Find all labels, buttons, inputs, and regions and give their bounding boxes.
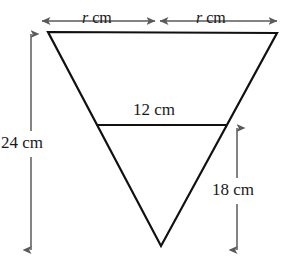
geometry-diagram	[0, 0, 286, 259]
label-radius-right-symbol: r	[196, 9, 202, 26]
label-lower-height: 18 cm	[212, 181, 254, 198]
diagram-background	[0, 0, 286, 259]
label-chord-width: 12 cm	[133, 101, 175, 118]
label-radius-left-unit: cm	[92, 9, 112, 26]
label-radius-left-symbol: r	[82, 9, 88, 26]
label-radius-right-unit: cm	[206, 9, 226, 26]
label-radius-left: r cm	[82, 10, 112, 26]
label-total-height: 24 cm	[1, 134, 43, 151]
label-radius-right: r cm	[196, 10, 226, 26]
